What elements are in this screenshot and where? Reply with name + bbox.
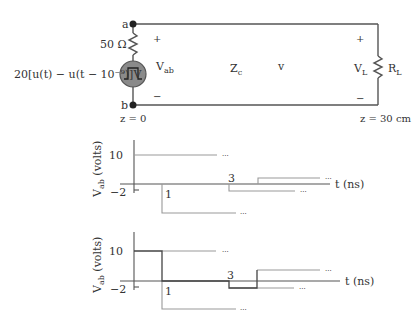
tick-minus-2: −2	[110, 283, 126, 296]
tick-1: 1	[165, 285, 172, 298]
node-b-label: b	[121, 99, 128, 112]
ellipsis: ···	[299, 285, 306, 293]
y-axis-label: Vab (volts)	[91, 237, 106, 294]
tick-minus-2: −2	[110, 186, 126, 199]
tick-3: 3	[227, 269, 234, 282]
source-resistor-icon	[129, 33, 137, 55]
chart2-total-vab	[134, 251, 257, 288]
z-end-label: z = 30 cm	[360, 113, 412, 124]
node-a	[130, 21, 137, 28]
node-a-label: a	[122, 18, 129, 31]
node-b	[130, 102, 137, 109]
ellipsis: ···	[240, 210, 247, 218]
x-axis-label: t (ns)	[335, 178, 364, 191]
y-axis-label: Vab (volts)	[91, 141, 106, 198]
ellipsis: ···	[325, 175, 332, 183]
velocity-label: v	[277, 60, 285, 73]
chart-2: ··· ··· ··· ··· 10 −2 1 3 t (ns) Vab (vo…	[91, 232, 374, 314]
source-expression: 20[u(t) − u(t − 10⁻⁹)]V	[14, 68, 142, 81]
ellipsis: ···	[240, 306, 247, 314]
ellipsis: ···	[222, 152, 229, 160]
chart1-step-t3	[229, 184, 295, 191]
chart1-step-t1	[162, 184, 236, 213]
x-axis-label: t (ns)	[345, 275, 374, 288]
load-resistor-icon	[374, 56, 382, 78]
vl-label: VL	[353, 62, 368, 77]
vab-plus: +	[153, 33, 161, 44]
ellipsis: ···	[325, 267, 332, 275]
vl-minus: −	[356, 93, 364, 104]
chart1-step-t4	[258, 178, 320, 184]
vl-plus: +	[356, 33, 364, 44]
tick-10: 10	[109, 149, 123, 162]
diagram-canvas: a b 50 Ω 20[u(t) − u(t − 10⁻⁹)]V + − Vab…	[0, 0, 417, 318]
ellipsis: ···	[222, 248, 229, 256]
tick-10: 10	[109, 245, 123, 258]
z-start-label: z = 0	[120, 113, 146, 124]
vab-label: Vab	[155, 60, 174, 75]
vab-minus: −	[153, 91, 161, 102]
tick-3: 3	[228, 172, 235, 185]
tick-1: 1	[165, 188, 172, 201]
ellipsis: ···	[300, 188, 307, 196]
rl-label: RL	[388, 62, 402, 77]
line-impedance-label: Zc	[230, 62, 243, 77]
source-resistance-label: 50 Ω	[100, 38, 127, 51]
chart-1: ··· ··· ··· ··· 10 −2 1 3 t (ns) Vab (vo…	[91, 140, 364, 218]
circuit	[129, 24, 382, 105]
